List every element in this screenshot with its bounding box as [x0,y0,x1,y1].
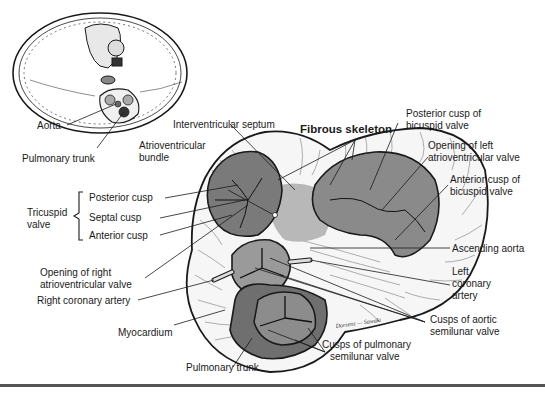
label-posterior-cusp-bicuspid-2: bicuspid valve [406,120,469,132]
label-posterior-cusp-bicuspid-1: Posterior cusp of [406,108,481,120]
bottom-rule [0,384,545,387]
label-inset-pulmonary-trunk: Pulmonary trunk [22,153,95,165]
label-anterior-cusp: Anterior cusp [89,230,148,242]
label-tricuspid-valve-2: valve [27,219,50,231]
label-cusps-aortic-1: Cusps of aortic [430,314,497,326]
label-opening-right-av-1: Opening of right [40,267,111,279]
label-cusps-pulmonary-1: Cusps of pulmonary [322,339,411,351]
label-opening-right-av-2: atrioventricular valve [40,279,132,291]
label-av-bundle-1: Atrioventricular [139,140,206,152]
label-left-coronary-2: coronary [452,278,491,290]
label-right-coronary-artery: Right coronary artery [37,295,130,307]
label-posterior-cusp: Posterior cusp [89,192,153,204]
tricuspid-brace [74,192,83,240]
label-pulmonary-trunk: Pulmonary trunk [186,362,259,374]
label-tricuspid-valve-1: Tricuspid [27,207,67,219]
label-aorta: Aorta [37,120,61,132]
label-interventricular-septum: Interventricular septum [173,119,275,131]
label-opening-left-av-2: atrioventricular valve [428,152,520,164]
label-septal-cusp: Septal cusp [89,212,141,224]
label-myocardium: Myocardium [118,327,172,339]
label-opening-left-av-1: Opening of left [428,140,493,152]
label-left-coronary-3: artery [452,290,478,302]
label-fibrous-skeleton: Fibrous skeleton [300,123,392,135]
label-left-coronary-1: Left [452,266,469,278]
label-anterior-cusp-bicuspid-2: bicuspid valve [450,186,513,198]
label-cusps-aortic-2: semilunar valve [430,326,499,338]
label-cusps-pulmonary-2: semilunar valve [330,351,399,363]
label-ascending-aorta: Ascending aorta [452,243,524,255]
label-av-bundle-2: bundle [139,152,169,164]
label-anterior-cusp-bicuspid-1: Anterior cusp of [450,174,520,186]
